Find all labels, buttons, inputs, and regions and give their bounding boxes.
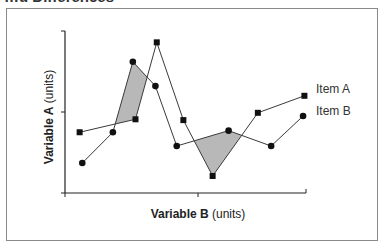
square-marker [132, 116, 138, 122]
line-chart: Variable B (units) Variable A (units) It… [0, 0, 383, 245]
x-axis-label: Variable B (units) [151, 207, 246, 221]
square-marker [255, 110, 261, 116]
circle-marker [300, 113, 307, 120]
circle-marker [225, 127, 232, 134]
circle-marker [130, 58, 137, 65]
circle-marker [152, 83, 159, 90]
series-lines [80, 42, 305, 176]
legend-item-b: Item B [316, 104, 351, 118]
circle-marker [79, 160, 86, 167]
square-marker [180, 117, 186, 123]
square-marker [301, 93, 307, 99]
circle-marker [110, 129, 117, 136]
square-marker [154, 39, 160, 45]
circle-marker [268, 143, 275, 150]
axes [61, 31, 306, 197]
square-marker [210, 173, 216, 179]
circle-marker [173, 143, 180, 150]
y-axis-label: Variable A (units) [42, 70, 56, 164]
series-markers [77, 39, 308, 179]
series-line-item-a [80, 42, 305, 176]
square-marker [77, 129, 83, 135]
legend: Item AItem B [316, 82, 351, 118]
legend-item-a: Item A [316, 82, 350, 96]
